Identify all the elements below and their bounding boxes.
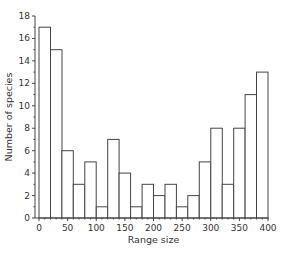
histogram-bar [211,128,223,218]
x-tick-label: 150 [116,223,133,233]
histogram-bar [131,207,142,218]
y-tick-label: 10 [19,101,31,111]
x-tick-label: 200 [145,223,162,233]
histogram-bar [119,173,131,218]
histogram-bar [62,151,73,218]
histogram-bar [222,184,233,218]
histogram-bar [199,162,211,218]
histogram-bar [96,207,108,218]
y-tick-label: 14 [19,56,31,66]
histogram-bar [165,184,176,218]
x-tick-label: 50 [62,223,74,233]
histogram-bar [257,72,269,218]
x-tick-label: 350 [231,223,248,233]
histogram-chart: 024681012141618 050100150200250300350400… [0,0,284,256]
histogram-bar [39,27,51,218]
y-axis: 024681012141618 [19,11,35,223]
histogram-bar [188,196,199,218]
x-tick-label: 250 [174,223,191,233]
x-tick-label: 0 [36,223,42,233]
x-tick-label: 100 [88,223,105,233]
bars [39,27,268,218]
y-tick-label: 8 [24,123,30,133]
y-tick-label: 16 [19,33,31,43]
histogram-bar [245,95,256,218]
x-tick-label: 300 [202,223,219,233]
histogram-bar [176,207,187,218]
histogram-bar [51,50,63,218]
y-axis-title: Number of species [3,73,14,162]
x-tick-label: 400 [259,223,276,233]
histogram-bar [108,139,119,218]
y-tick-label: 6 [24,146,30,156]
histogram-bar [73,184,85,218]
y-tick-label: 12 [19,78,30,88]
y-tick-label: 4 [24,168,30,178]
x-axis: 050100150200250300350400 [35,218,277,233]
histogram-bar [85,162,96,218]
y-tick-label: 2 [24,191,30,201]
histogram-bar [142,184,153,218]
histogram-bar [154,196,166,218]
x-axis-title: Range size [128,234,180,245]
y-tick-label: 18 [19,11,31,21]
histogram-bar [234,128,245,218]
y-tick-label: 0 [24,213,30,223]
